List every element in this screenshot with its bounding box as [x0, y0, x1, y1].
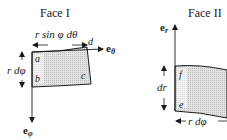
face-one-width-label: r sin φ dθ: [35, 28, 78, 40]
face-one-height-label: r dφ: [7, 64, 26, 76]
corner-a: a: [35, 53, 40, 64]
corner-c: c: [81, 70, 86, 81]
corner-b: b: [35, 73, 40, 84]
face-two-title: Face II: [188, 6, 222, 20]
corner-e: e: [179, 99, 184, 110]
e-r-label: er: [160, 21, 169, 35]
face-one-title: Face I: [40, 6, 70, 20]
face-two: Face II er f e dr r dφ: [157, 6, 227, 127]
dr-label: dr: [157, 81, 168, 93]
e-phi-label: eφ: [23, 124, 33, 138]
corner-d: d: [88, 36, 94, 47]
face-one: Face I r sin φ dθ a b c d r dφ eθ eφ: [7, 6, 116, 138]
spherical-element-diagram: Face I r sin φ dθ a b c d r dφ eθ eφ Fac…: [0, 0, 227, 140]
r-dphi-label: r dφ: [188, 115, 207, 127]
e-theta-label: eθ: [106, 42, 116, 56]
